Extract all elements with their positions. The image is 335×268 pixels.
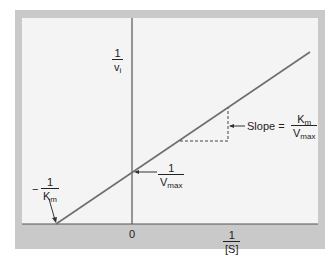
slope-arrow-head — [229, 124, 234, 128]
x-intercept-sign: − — [32, 183, 38, 195]
regression-line — [56, 52, 310, 224]
y-intercept-label: 1 Vmax — [158, 162, 184, 188]
x-intercept-label: 1 Km — [41, 176, 59, 202]
x-intercept-arrow-head — [52, 217, 57, 223]
x-axis-label: 1 [S] — [223, 229, 240, 255]
slope-label: Slope = — [247, 120, 285, 132]
y-axis-label: 1 vi — [112, 47, 123, 73]
x-tick-zero: 0 — [129, 228, 135, 240]
plot-graphics — [0, 0, 335, 268]
slope-fraction: Km Vmax — [291, 113, 317, 139]
